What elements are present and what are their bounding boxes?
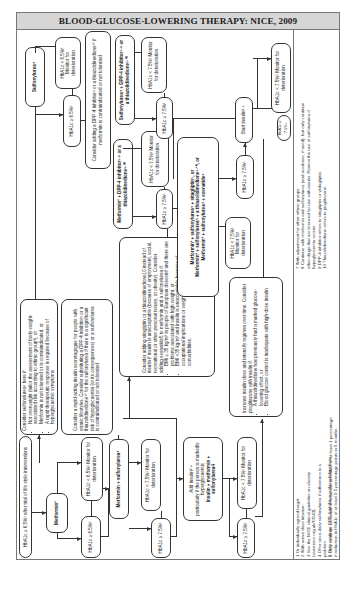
connector — [173, 119, 174, 179]
insulin-hba1c-below-target: HbA1c < 7.5%¹ Monitor for deterioration — [271, 43, 291, 113]
connector — [72, 89, 73, 95]
metformin-dpp4-hba1c-below-target: HbA1c < 7.5%¹ Monitor for deterioration — [141, 131, 169, 187]
start-node: HbA1c ≥ 6.5%¹ after trial of life style … — [19, 436, 32, 558]
connector — [173, 118, 235, 119]
connector — [164, 93, 165, 97]
footnote-divider — [293, 29, 294, 559]
connector — [35, 107, 36, 299]
connector — [35, 46, 57, 47]
sulfonylurea-dpp4-hba1c-above-target: HbA1c ≥ 7.5%¹ — [156, 97, 173, 139]
connector — [164, 187, 165, 189]
arrow-icon — [37, 435, 41, 439]
metformin-sulfonylurea-node: Metformin + sulfonylurea⁴ — [109, 439, 129, 519]
connector — [57, 533, 58, 539]
guideline-frame: BLOOD-GLUCOSE-LOWERING THERAPY: NICE, 20… — [16, 12, 340, 560]
connector — [35, 46, 36, 53]
connector — [262, 419, 263, 517]
sulfonylurea-hba1c-below-target: HbA1c < 6.5%¹ Monitor for deterioration — [55, 37, 81, 89]
metformin-dpp4-node: Metformin² + DPP-4 inhibitor⁵·⁹ or a thi… — [113, 139, 133, 229]
add-insulin-node: Add insulin²·⁸ particularly if the perso… — [183, 437, 223, 521]
triple-therapy-node: Metformin² + sulfonylurea⁴ + sitagliptin… — [177, 137, 219, 297]
connector — [129, 377, 130, 419]
connector — [81, 120, 85, 121]
insulin-hba1c-above-target: HbA1c ≥ 7.5%¹ — [277, 115, 291, 141]
page-title: BLOOD-GLUCOSE-LOWERING THERAPY: NICE, 20… — [17, 13, 339, 30]
connector — [167, 229, 168, 237]
connector — [123, 148, 143, 149]
increase-insulin-note: Increase insulin dose and intensify regi… — [229, 277, 283, 417]
metformin-dpp4-hba1c-above-target: HbA1c ≥ 7.5%¹ — [156, 189, 173, 229]
metformin-sulfonylurea-hba1c-below-target: HbA1c < 7.5%¹ Monitor for deterioration — [141, 439, 161, 511]
connector — [123, 418, 177, 419]
triple-hba1c-above-target: HbA1c ≥ 7.5%¹ — [236, 155, 254, 199]
arrow-icon — [127, 377, 131, 381]
consider-sulfonylurea-note: Consider sulfonylurea⁴ here if: Not over… — [20, 299, 58, 435]
metformin-hba1c-below-target: HbA1c < 6.5%¹ Monitor for deterioration — [81, 437, 103, 501]
rapid-acting-secretagogue-note: Consider a rapid-acting insulin secretag… — [61, 299, 113, 435]
connector — [57, 463, 58, 493]
footnotes-right: 7 With adjustment for other ethnic group… — [295, 103, 327, 269]
insulin-combo-hba1c-below-target: HbA1c < 7.5%¹ Monitor for deterioration — [237, 437, 257, 509]
metformin-hba1c-above-target: HbA1c ≥ 6.5%¹ — [81, 516, 101, 558]
sulfonylurea-node: Sulfonylurea⁴ — [25, 47, 45, 107]
sulfonylurea-dpp4-hba1c-below-target: HbA1c < 7.5%¹ Monitor for deterioration — [141, 37, 167, 93]
triple-hba1c-below-target: HbA1c < 7.5%¹ Monitor for deterioration — [225, 217, 251, 269]
connector — [246, 509, 247, 518]
connector — [257, 59, 258, 109]
arrow-icon — [260, 419, 264, 423]
connector — [161, 511, 162, 518]
footnotes-bottom-left: 6 Only continue exenatide if reduction i… — [328, 417, 333, 557]
connector — [176, 419, 177, 479]
arrow-icon — [243, 143, 247, 147]
connector — [176, 479, 177, 537]
connector — [263, 139, 264, 279]
connector — [39, 435, 40, 463]
sulfonylurea-hba1c-above-target: HbA1c ≥ 6.5%¹ — [63, 95, 81, 147]
insulin-combo-hba1c-above-target: HbA1c ≥ 7.5%¹ — [237, 518, 255, 558]
consider-dpp4-note: Consider adding a DPP-4 inhibitor⁹ or a … — [85, 31, 111, 169]
metformin-node: Metformin² — [46, 493, 68, 533]
start-insulin-node: Start insulin²·⁸ — [235, 97, 253, 143]
flowchart-viewport: HbA1c ≥ 6.5%¹ after trial of life style … — [17, 29, 339, 559]
metformin-sulfonylurea-hba1c-above-target: HbA1c ≥ 7.5%¹ — [151, 518, 171, 558]
flowchart: HbA1c ≥ 6.5%¹ after trial of life style … — [17, 29, 339, 559]
connector — [91, 501, 92, 516]
sulfonylurea-dpp4-node: Sulfonylurea⁴ + DPP-4 inhibitor⁵·⁹ or a … — [115, 35, 135, 125]
connector — [229, 479, 230, 537]
